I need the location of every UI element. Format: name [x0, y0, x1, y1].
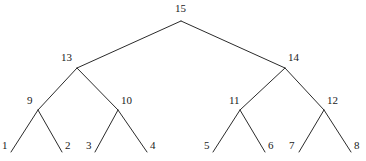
tree-node-label-7: 7 — [289, 140, 295, 151]
tree-node-label-8: 8 — [354, 140, 360, 151]
tree-edge — [38, 110, 62, 152]
tree-edge — [77, 21, 181, 68]
tree-node-label-13: 13 — [61, 52, 72, 63]
tree-node-label-1: 1 — [2, 140, 8, 151]
tree-node-label-11: 11 — [229, 95, 240, 106]
tree-node-label-9: 9 — [27, 95, 33, 106]
tree-node-label-10: 10 — [121, 95, 132, 106]
tree-edge — [11, 110, 38, 152]
tree-edge — [38, 68, 77, 110]
tree-edge — [285, 68, 324, 110]
tree-edge — [240, 68, 285, 110]
tree-node-label-14: 14 — [288, 52, 299, 63]
tree-node-label-4: 4 — [150, 140, 156, 151]
tree-node-label-5: 5 — [204, 140, 210, 151]
tree-node-label-15: 15 — [175, 3, 186, 14]
tree-node-label-3: 3 — [86, 140, 92, 151]
tree-edge — [77, 68, 118, 110]
tree-edges-canvas — [0, 0, 366, 161]
tree-edge — [181, 21, 285, 68]
tree-node-label-2: 2 — [65, 140, 71, 151]
tree-node-label-12: 12 — [327, 95, 338, 106]
tree-edge — [240, 110, 265, 152]
tree-edge — [324, 110, 351, 152]
tree-edge — [299, 110, 324, 152]
tree-edge — [118, 110, 147, 152]
edge-layer — [11, 21, 351, 152]
tree-node-label-6: 6 — [268, 140, 274, 151]
tree-edge — [95, 110, 118, 152]
binary-tree-figure: 151314910111212345678 — [0, 0, 366, 161]
tree-edge — [213, 110, 240, 152]
